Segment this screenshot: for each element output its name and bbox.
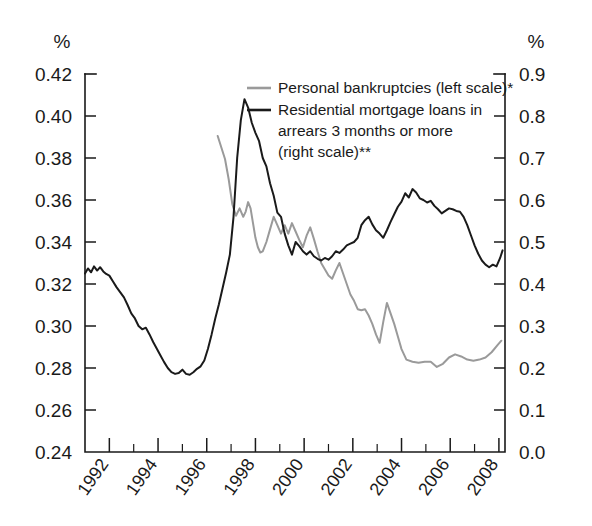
x-axis-tick-labels: 199219941996199820002002200420062008 <box>73 455 502 499</box>
left-axis-tick-label: 0.40 <box>35 106 72 127</box>
x-axis-ticks <box>109 438 499 452</box>
right-axis-tick-labels: 0.90.80.70.60.50.40.30.20.10.0 <box>519 64 546 463</box>
left-axis-tick-label: 0.32 <box>35 274 72 295</box>
x-axis-tick-label: 2004 <box>365 455 404 499</box>
right-axis-tick-label: 0.1 <box>519 400 545 421</box>
left-axis-tick-label: 0.36 <box>35 190 72 211</box>
x-axis-tick-label: 1996 <box>171 455 210 499</box>
left-axis-tick-label: 0.26 <box>35 400 72 421</box>
series-lines <box>85 99 503 375</box>
right-axis-tick-label: 0.7 <box>519 148 545 169</box>
right-axis-tick-label: 0.5 <box>519 232 545 253</box>
left-axis-tick-label: 0.38 <box>35 148 72 169</box>
right-axis-unit-label: % <box>528 31 545 52</box>
left-axis-unit-label: % <box>54 31 71 52</box>
left-axis-tick-labels: 0.420.400.380.360.340.320.300.280.260.24 <box>35 64 72 463</box>
series-line-residential-mortgage-arrears <box>85 99 503 375</box>
chart-svg: 0.420.400.380.360.340.320.300.280.260.24… <box>0 0 592 526</box>
left-axis-tick-label: 0.28 <box>35 358 72 379</box>
right-axis-tick-label: 0.8 <box>519 106 545 127</box>
left-axis-tick-label: 0.24 <box>35 442 72 463</box>
x-axis-tick-label: 2006 <box>414 455 453 499</box>
x-axis-tick-label: 1998 <box>219 455 258 499</box>
right-axis-tick-label: 0.0 <box>519 442 545 463</box>
legend-label-residential-mortgage-arrears-line1: Residential mortgage loans in <box>278 101 482 118</box>
right-axis-tick-label: 0.3 <box>519 316 545 337</box>
x-axis-tick-label: 2008 <box>463 455 502 499</box>
series-line-personal-bankruptcies <box>218 136 502 367</box>
left-axis-tick-label: 0.30 <box>35 316 72 337</box>
right-axis-tick-label: 0.9 <box>519 64 545 85</box>
left-axis-tick-label: 0.34 <box>35 232 72 253</box>
x-axis-tick-label: 1992 <box>73 455 112 499</box>
legend-label-residential-mortgage-arrears-line3: (right scale)** <box>278 143 371 160</box>
right-axis-tick-label: 0.4 <box>519 274 546 295</box>
left-axis-ticks <box>85 116 96 410</box>
right-axis-ticks <box>494 116 505 410</box>
left-axis-tick-label: 0.42 <box>35 64 72 85</box>
x-axis-tick-label: 2000 <box>268 455 307 499</box>
legend-label-residential-mortgage-arrears-line2: arrears 3 months or more <box>278 122 453 139</box>
legend-label-personal-bankruptcies: Personal bankruptcies (left scale)* <box>278 79 513 96</box>
right-axis-tick-label: 0.6 <box>519 190 545 211</box>
x-axis-tick-label: 2002 <box>317 455 356 499</box>
x-axis-tick-label: 1994 <box>122 455 161 499</box>
right-axis-tick-label: 0.2 <box>519 358 545 379</box>
chart-container: 0.420.400.380.360.340.320.300.280.260.24… <box>0 0 592 526</box>
legend: Personal bankruptcies (left scale)* Resi… <box>247 79 513 160</box>
